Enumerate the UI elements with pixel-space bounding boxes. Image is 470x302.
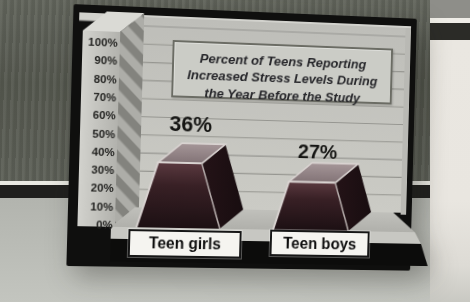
category-label-teen-girls: Teen girls <box>128 229 242 258</box>
chart-title-box: Percent of Teens Reporting Increased Str… <box>171 40 393 105</box>
category-label-teen-boys: Teen boys <box>270 230 370 258</box>
value-label-teen-girls: 36% <box>152 111 230 139</box>
value-label-teen-boys: 27% <box>280 139 356 164</box>
photo-background: 100%90%80%70%60%50%40%30%20%10%0% Percen… <box>0 0 470 302</box>
chart-panel: 100%90%80%70%60%50%40%30%20%10%0% Percen… <box>66 4 416 271</box>
axis-column-face <box>77 30 120 226</box>
